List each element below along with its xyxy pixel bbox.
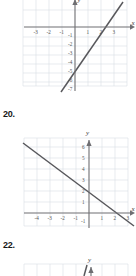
x-tick-label: 3: [113, 29, 116, 35]
problem-number-22: 22.: [3, 240, 15, 250]
x-tick-label: 3: [127, 215, 130, 221]
x-axis-label-1: x: [131, 19, 136, 27]
y-tick-label: -4: [68, 59, 73, 65]
x-tick-label: -2: [47, 29, 52, 35]
y-tick-label: 4: [82, 166, 85, 172]
textbook-page: y x -3 -2 -1 1 2 3 -1 -2 -3 -4 -5 -6 -7 …: [0, 0, 135, 276]
x-tick-label: -3: [48, 215, 53, 221]
coordinate-plane-1: y x -3 -2 -1 1 2 3 -1 -2 -3 -4 -5 -6 -7: [22, 0, 135, 94]
y-tick-label: 2: [82, 188, 85, 194]
x-tick-label: -3: [34, 29, 39, 35]
plotted-line-2: [23, 143, 134, 226]
plotted-line-3: [84, 265, 87, 276]
figure-top-graph: y x -3 -2 -1 1 2 3 -1 -2 -3 -4 -5 -6 -7: [22, 0, 135, 94]
y-tick-label: -5: [68, 68, 73, 74]
x-axis-label-2: x: [131, 205, 136, 213]
y-axis-label-3: y: [87, 256, 92, 264]
figure-middle-graph: y x -4 -3 -2 -1 1 2 3 6 5 4 3 2 1 -1: [22, 122, 135, 230]
problem-number-20: 20.: [3, 109, 15, 119]
y-axis-label-1: y: [77, 0, 82, 4]
x-tick-label: -4: [35, 215, 40, 221]
coordinate-plane-2: y x -4 -3 -2 -1 1 2 3 6 5 4 3 2 1 -1: [22, 122, 135, 230]
y-tick-label: -3: [68, 50, 73, 56]
x-tick-label: -1: [74, 215, 79, 221]
figure-bottom-graph: y: [22, 252, 135, 276]
x-tick-label: 2: [114, 215, 117, 221]
y-tick-label: -6: [68, 77, 73, 83]
y-tick-label: -1: [68, 32, 73, 38]
x-tick-label: 1: [87, 29, 90, 35]
x-tick-label: -1: [60, 29, 65, 35]
y-tick-label: -1: [81, 218, 86, 224]
x-tick-label: 2: [100, 29, 103, 35]
y-tick-label: -2: [68, 41, 73, 47]
y-tick-label: 3: [82, 177, 85, 183]
x-tick-label: 1: [101, 215, 104, 221]
y-axis-arrow-2: [86, 140, 91, 146]
y-tick-label: -7: [68, 86, 73, 92]
y-axis-label-2: y: [85, 129, 90, 137]
grid-lines-3: [24, 264, 128, 276]
y-axis-arrow-3: [88, 267, 93, 273]
y-tick-label: 1: [82, 199, 85, 205]
x-tick-label: -2: [61, 215, 66, 221]
y-tick-label: 5: [82, 155, 85, 161]
y-tick-label: 6: [82, 144, 85, 150]
coordinate-plane-3: y: [22, 252, 135, 276]
